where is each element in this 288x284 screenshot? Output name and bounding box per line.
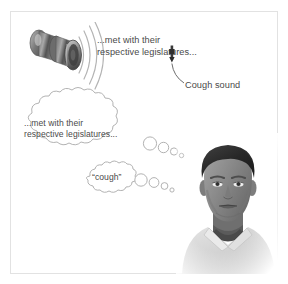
listener-portrait [176,133,280,274]
portrait-vignette [176,133,280,274]
figure-canvas: ...met with their respective legislature… [0,0,288,284]
thought-bubble-cough-text: “cough” [92,172,122,184]
bubble-cough-tail [135,174,174,192]
